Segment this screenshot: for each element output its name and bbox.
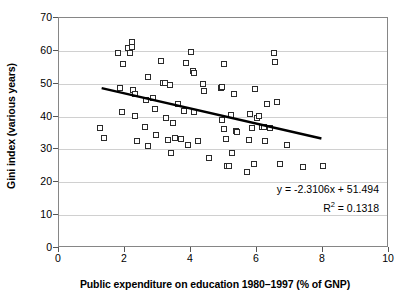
data-point-marker [234, 129, 240, 135]
y-axis-tick-label: 10 [26, 208, 52, 220]
y-axis-tick-label: 40 [26, 110, 52, 122]
data-point-marker [170, 120, 176, 126]
data-point-marker [223, 136, 229, 142]
x-axis-tick-mark [124, 247, 125, 252]
r-value: = 0.1318 [335, 202, 379, 214]
data-point-marker [168, 150, 174, 156]
data-point-marker [145, 74, 151, 80]
x-axis-tick-labels: 0246810 [58, 252, 388, 268]
data-point-marker [228, 112, 234, 118]
data-point-marker [261, 124, 267, 130]
x-axis-tick-label: 0 [43, 252, 73, 264]
data-point-marker [132, 91, 138, 97]
data-point-marker [185, 142, 191, 148]
data-point-marker [219, 117, 225, 123]
data-point-marker [251, 161, 257, 167]
x-axis-tick-mark [256, 247, 257, 252]
data-point-marker [206, 155, 212, 161]
x-axis-tick-label: 6 [241, 252, 271, 264]
data-point-marker [145, 143, 151, 149]
data-point-marker [247, 111, 253, 117]
data-point-marker [272, 59, 278, 65]
data-point-marker [117, 85, 123, 91]
data-point-marker [246, 137, 252, 143]
data-point-marker [229, 150, 235, 156]
data-point-marker [181, 108, 187, 114]
trendline-equation: y = -2.3106x + 51.494 [277, 182, 379, 197]
data-point-marker [120, 61, 126, 67]
data-point-marker [167, 82, 173, 88]
data-point-marker [101, 135, 107, 141]
y-axis-tick-labels: 010203040506070 [22, 17, 52, 247]
data-point-marker [150, 95, 156, 101]
data-point-marker [183, 60, 189, 66]
data-point-marker [163, 115, 169, 121]
x-axis-tick-mark [388, 247, 389, 252]
data-point-marker [226, 163, 232, 169]
data-point-marker [219, 84, 225, 90]
data-point-marker [97, 125, 103, 131]
x-axis-tick-mark [322, 247, 323, 252]
data-point-marker [172, 135, 178, 141]
x-axis-tick-label: 8 [307, 252, 337, 264]
trendline-equation-box: y = -2.3106x + 51.494 R2 = 0.1318 [277, 182, 379, 216]
data-point-marker [129, 44, 135, 50]
gridline-horizontal [59, 51, 387, 52]
data-point-marker [277, 161, 283, 167]
y-axis-tick-label: 30 [26, 142, 52, 154]
x-axis-tick-mark [58, 247, 59, 252]
data-point-marker [300, 164, 306, 170]
data-point-marker [132, 113, 138, 119]
data-point-marker [244, 169, 250, 175]
data-point-marker [274, 99, 280, 105]
data-point-marker [221, 126, 227, 132]
data-point-marker [201, 88, 207, 94]
data-point-marker [200, 81, 206, 87]
y-axis-tick-label: 50 [26, 77, 52, 89]
trendline-r-squared: R2 = 0.1318 [277, 197, 379, 216]
data-point-marker [191, 70, 197, 76]
x-axis-tick-label: 10 [373, 252, 403, 264]
x-axis-tick-mark [190, 247, 191, 252]
y-axis-tick-label: 20 [26, 175, 52, 187]
data-point-marker [264, 101, 270, 107]
data-point-marker [127, 50, 133, 56]
data-point-marker [165, 137, 171, 143]
data-point-marker [221, 61, 227, 67]
data-point-marker [262, 138, 268, 144]
x-axis-tick-label: 4 [175, 252, 205, 264]
data-point-marker [271, 50, 277, 56]
data-point-marker [320, 163, 326, 169]
x-axis-title: Public expenditure on education 1980–199… [40, 278, 390, 290]
scatter-chart: Gini index (various years) 0102030405060… [0, 0, 409, 304]
y-axis-tick-label: 70 [26, 11, 52, 23]
y-axis-title: Gini index (various years) [2, 2, 20, 250]
data-point-marker [142, 124, 148, 130]
data-point-marker [249, 125, 255, 131]
data-point-marker [252, 86, 258, 92]
data-point-marker [231, 91, 237, 97]
data-point-marker [134, 138, 140, 144]
data-point-marker [119, 109, 125, 115]
data-point-marker [115, 50, 121, 56]
x-axis-tick-label: 2 [109, 252, 139, 264]
data-point-marker [175, 101, 181, 107]
data-point-marker [191, 109, 197, 115]
data-point-marker [195, 138, 201, 144]
data-point-marker [152, 106, 158, 112]
data-point-marker [158, 58, 164, 64]
gridline-horizontal [59, 149, 387, 150]
data-point-marker [267, 125, 273, 131]
data-point-marker [256, 113, 262, 119]
data-point-marker [188, 49, 194, 55]
data-point-marker [178, 136, 184, 142]
plot-area: y = -2.3106x + 51.494 R2 = 0.1318 [58, 17, 388, 247]
data-point-marker [143, 97, 149, 103]
data-point-marker [153, 132, 159, 138]
r-label: R [323, 202, 331, 214]
y-axis-tick-label: 60 [26, 44, 52, 56]
data-point-marker [284, 142, 290, 148]
